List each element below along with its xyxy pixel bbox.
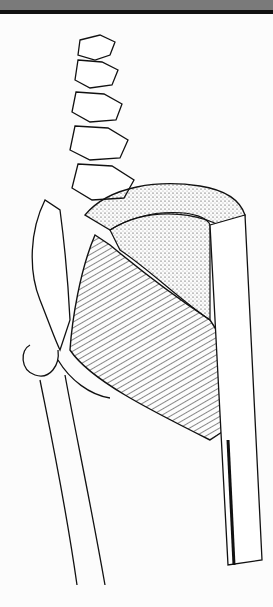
anatomy-illustration <box>0 0 273 607</box>
lumbar-spine <box>70 35 134 200</box>
sacrum <box>32 200 70 350</box>
femur <box>23 345 110 585</box>
illustration-frame <box>0 0 273 607</box>
